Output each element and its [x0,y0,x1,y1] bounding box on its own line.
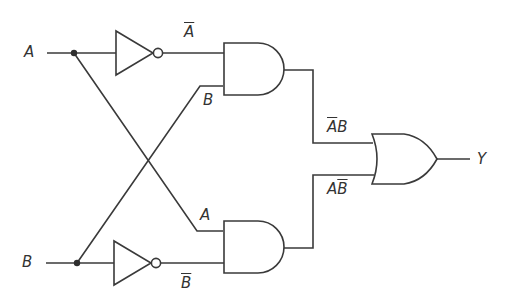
wire-b-to-and-top [77,86,223,263]
and-gate-top [224,43,284,95]
label-input-b: B [22,255,32,270]
label-not-a-and-b-a: A [327,118,337,136]
label-a-and-not-b-a: A [327,180,337,198]
label-output-y: Y [477,152,486,167]
inversion-bubble-a [153,48,162,57]
xor-circuit-diagram [0,0,505,301]
not-gate-a [116,31,153,75]
label-a-and-not-b-b: B [337,180,347,198]
or-gate [372,134,437,184]
label-and-bottom-input-a: A [200,208,210,223]
label-and-top-input-b: B [203,93,213,108]
label-not-b: B [181,276,191,291]
and-gate-bottom [224,221,284,273]
junction-dot-a [71,50,77,56]
not-gate-b [114,241,151,285]
wire-a-to-and-bottom [74,53,223,231]
label-not-a-and-b-b: B [337,118,347,136]
label-input-a: A [24,45,34,60]
junction-dot-b [74,260,80,266]
label-not-a: A [184,25,194,40]
inversion-bubble-b [151,258,160,267]
label-a-and-not-b: AB [327,182,348,197]
label-not-a-and-b: AB [327,120,348,135]
